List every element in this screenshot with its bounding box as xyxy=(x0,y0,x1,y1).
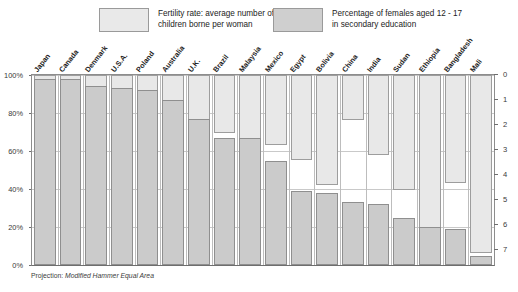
y-axis-left-tick-label: 60% xyxy=(8,147,23,156)
category-label: India xyxy=(365,55,383,74)
bar-column xyxy=(135,75,161,265)
legend-label-fertility: Fertility rate: average number of childr… xyxy=(158,8,274,30)
bar-secondary-education xyxy=(368,204,390,265)
projection-footnote-text: Modified Hammer Equal Area xyxy=(65,272,154,279)
category-label: Ethiopia xyxy=(417,46,442,74)
category-label: China xyxy=(340,52,360,74)
category-label: Egypt xyxy=(288,52,308,74)
category-label: Australia xyxy=(160,44,186,74)
category-label: Mexico xyxy=(263,49,285,74)
y-axis-right-tick-label: 2 xyxy=(503,120,507,129)
bar-column xyxy=(340,75,366,265)
category-label: Japan xyxy=(32,52,52,74)
legend-item-education: Percentage of females aged 12 - 17 in se… xyxy=(273,8,462,32)
y-axis-left-tick-label: 100% xyxy=(4,71,23,80)
y-axis-right-tick-mark xyxy=(494,249,498,250)
y-axis-right-tick-label: 3 xyxy=(503,145,507,154)
bar-column xyxy=(83,75,109,265)
category-label: Mali xyxy=(468,57,484,74)
legend-swatch-fertility xyxy=(99,8,149,32)
bar-secondary-education xyxy=(162,100,184,265)
y-axis-right-tick-mark xyxy=(494,199,498,200)
category-label: Poland xyxy=(134,49,156,74)
y-axis-right-tick-mark xyxy=(494,174,498,175)
bar-secondary-education xyxy=(239,138,261,265)
bar-column xyxy=(314,75,340,265)
y-axis-right-tick-mark xyxy=(494,149,498,150)
category-label: Denmark xyxy=(83,44,109,74)
legend-swatch-education xyxy=(273,8,323,32)
bar-column xyxy=(237,75,263,265)
bar-secondary-education xyxy=(85,86,107,265)
bar-fertility-rate xyxy=(368,75,390,155)
bar-secondary-education xyxy=(342,202,364,265)
bar-secondary-education xyxy=(34,79,56,265)
bar-secondary-education xyxy=(111,88,133,265)
bar-column xyxy=(289,75,315,265)
bar-fertility-rate xyxy=(265,75,287,145)
plot-inner xyxy=(32,75,494,265)
bar-secondary-education xyxy=(265,161,287,266)
y-axis-right-tick-mark xyxy=(494,124,498,125)
bar-column xyxy=(391,75,417,265)
bar-column xyxy=(263,75,289,265)
projection-footnote-lead: Projection: xyxy=(31,272,65,279)
y-axis-left: 100%80%60%40%20%0% xyxy=(0,74,29,264)
y-axis-right-tick-label: 0 xyxy=(503,70,507,79)
y-axis-right-tick-label: 1 xyxy=(503,95,507,104)
bar-column xyxy=(160,75,186,265)
bar-column xyxy=(186,75,212,265)
bar-fertility-rate xyxy=(393,75,415,190)
bar-column xyxy=(32,75,58,265)
bar-secondary-education xyxy=(470,256,492,266)
plot-area xyxy=(31,74,495,266)
bar-fertility-rate xyxy=(214,75,236,133)
bar-column xyxy=(443,75,469,265)
y-axis-right-tick-mark xyxy=(494,99,498,100)
category-label: Brazil xyxy=(211,53,230,74)
bar-column xyxy=(366,75,392,265)
bar-secondary-education xyxy=(291,191,313,265)
legend-label-education: Percentage of females aged 12 - 17 in se… xyxy=(332,8,462,30)
y-axis-right-tick-label: 7 xyxy=(503,245,507,254)
y-axis-right-tick-label: 6 xyxy=(503,220,507,229)
bar-column xyxy=(58,75,84,265)
bar-fertility-rate xyxy=(445,75,467,183)
category-label: Malaysia xyxy=(237,44,263,74)
bar-secondary-education xyxy=(214,138,236,265)
y-axis-left-tick-label: 40% xyxy=(8,185,23,194)
chart-legend: Fertility rate: average number of childr… xyxy=(0,0,518,42)
y-axis-right-tick-label: 4 xyxy=(503,170,507,179)
projection-footnote: Projection: Modified Hammer Equal Area xyxy=(31,272,154,279)
bar-secondary-education xyxy=(60,79,82,265)
category-label: U.K. xyxy=(186,57,202,74)
y-axis-right-tick-mark xyxy=(494,224,498,225)
bar-secondary-education xyxy=(393,218,415,266)
bar-secondary-education xyxy=(445,229,467,265)
y-axis-left-tick-label: 20% xyxy=(8,223,23,232)
bar-fertility-rate xyxy=(188,75,210,120)
bar-column xyxy=(468,75,494,265)
category-label: U.S.A. xyxy=(109,52,129,74)
bar-secondary-education xyxy=(419,227,441,265)
bar-fertility-rate xyxy=(342,75,364,120)
category-label: Canada xyxy=(57,48,80,74)
y-axis-right: 01234567 xyxy=(494,68,518,270)
y-axis-right-tick-label: 5 xyxy=(503,195,507,204)
bar-fertility-rate xyxy=(419,75,441,250)
category-labels: JapanCanadaDenmarkU.S.A.PolandAustraliaU… xyxy=(31,40,493,74)
category-label: Bolivia xyxy=(314,50,336,74)
bar-secondary-education xyxy=(188,119,210,265)
bar-fertility-rate xyxy=(470,75,492,253)
category-label: Sudan xyxy=(391,51,412,74)
bar-secondary-education xyxy=(137,90,159,265)
y-axis-left-tick-label: 80% xyxy=(8,109,23,118)
y-axis-right-tick-mark xyxy=(494,74,498,75)
chart-root: Fertility rate: average number of childr… xyxy=(0,0,518,292)
legend-item-fertility: Fertility rate: average number of childr… xyxy=(99,8,274,32)
bar-column xyxy=(109,75,135,265)
bar-column xyxy=(212,75,238,265)
bar-fertility-rate xyxy=(291,75,313,160)
bar-fertility-rate xyxy=(316,75,338,185)
bar-column xyxy=(417,75,443,265)
